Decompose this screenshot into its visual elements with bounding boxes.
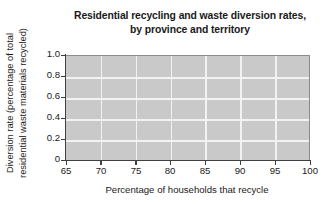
gridline-vertical	[205, 56, 207, 160]
plot-area	[66, 55, 310, 160]
y-tick-label: 0.6	[47, 91, 60, 101]
x-tick-label: 65	[61, 166, 72, 176]
gridline-vertical	[171, 56, 173, 160]
y-tick-label: 1.0	[47, 49, 60, 59]
y-axis-label-line-1: Diversion rate (percentage of total	[4, 28, 17, 178]
y-axis-label: Diversion rate (percentage of total resi…	[4, 28, 30, 178]
x-tick-label: 70	[96, 166, 107, 176]
y-tick-mark	[61, 118, 65, 119]
y-tick-label: 0.8	[47, 70, 60, 80]
y-tick-mark	[61, 76, 65, 77]
gridline-vertical	[240, 56, 242, 160]
y-axis-label-line-2: residential waste materials recycled)	[17, 28, 30, 178]
y-axis-label-container: Diversion rate (percentage of total resi…	[0, 0, 34, 206]
x-tick-label: 100	[302, 166, 318, 176]
gridline-horizontal	[66, 140, 309, 142]
gridline-vertical	[136, 56, 138, 160]
x-tick-label: 85	[200, 166, 211, 176]
y-tick-mark	[61, 97, 65, 98]
x-tick-label: 80	[165, 166, 176, 176]
y-tick-label: 0.4	[47, 112, 60, 122]
y-tick-mark	[61, 160, 65, 161]
y-tick-mark	[61, 55, 65, 56]
y-tick-label: 0.2	[47, 133, 60, 143]
y-axis-spine	[65, 54, 66, 161]
gridline-horizontal	[66, 98, 309, 100]
chart-title: Residential recycling and waste diversio…	[50, 9, 330, 36]
y-tick-mark	[61, 139, 65, 140]
chart-title-line-1: Residential recycling and waste diversio…	[50, 9, 330, 23]
gridline-vertical	[275, 56, 277, 160]
y-tick-label: 0	[55, 154, 60, 164]
chart-title-line-2: by province and territory	[50, 23, 330, 37]
gridline-vertical	[101, 56, 103, 160]
chart-figure: Residential recycling and waste diversio…	[0, 0, 334, 206]
x-tick-label: 75	[131, 166, 142, 176]
gridline-horizontal	[66, 77, 309, 79]
gridline-vertical	[309, 56, 311, 160]
gridline-horizontal	[66, 119, 309, 121]
x-tick-label: 90	[235, 166, 246, 176]
x-axis-label: Percentage of households that recycle	[40, 184, 334, 195]
x-tick-label: 95	[270, 166, 281, 176]
